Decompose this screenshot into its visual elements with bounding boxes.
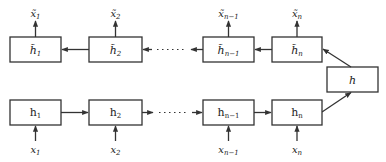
cell-subscript: n <box>298 112 303 120</box>
arrow-diagonal-icon <box>323 49 351 67</box>
cell-label: h <box>291 106 298 119</box>
bottleneck-cell: h <box>322 49 378 112</box>
cell-label: h̃ <box>110 44 117 57</box>
encoder-cell-1: h1 <box>10 100 61 125</box>
output-label-n-minus-1: x̃n−1 <box>218 8 238 21</box>
decoder-cell-2: h̃2 <box>89 37 142 62</box>
cell-subscript: 1 <box>37 50 41 58</box>
arrow-diagonal-icon <box>322 93 351 113</box>
output-label-1: x̃1 <box>30 8 40 21</box>
decoder-cell-n: h̃n <box>272 37 322 62</box>
output-label-n: x̃n <box>292 8 303 21</box>
encoder-cell-n-minus-1: hn−1 <box>203 100 254 125</box>
cell-label: h̃ <box>291 44 298 57</box>
cell-label: h <box>110 106 117 119</box>
cell-subscript: n <box>298 50 303 58</box>
input-label-n: xn <box>292 144 303 157</box>
input-label-2: x2 <box>110 144 121 157</box>
decoder-row: h̃1 h̃2 h̃n−1 h̃n <box>10 8 322 62</box>
cell-label: h̃ <box>30 44 37 57</box>
cell-subscript: n−1 <box>225 112 240 120</box>
input-label-1: x1 <box>30 144 40 157</box>
cell-label: h̃ <box>218 44 225 57</box>
cell-subscript: 2 <box>116 50 122 58</box>
autoencoder-diagram: h̃1 h̃2 h̃n−1 h̃n <box>0 0 386 162</box>
cell-subscript: 2 <box>117 112 121 120</box>
output-label-2: x̃2 <box>110 8 121 21</box>
cell-subscript: 1 <box>37 112 41 120</box>
decoder-cell-1: h̃1 <box>10 37 61 62</box>
cell-label: h <box>218 106 225 119</box>
encoder-cell-2: h2 <box>89 100 142 125</box>
bottleneck-label: h <box>349 74 356 87</box>
encoder-cell-n: hn <box>272 100 322 125</box>
decoder-cell-n-minus-1: h̃n−1 <box>203 37 254 62</box>
cell-label: h <box>30 106 37 119</box>
input-label-n-minus-1: xn−1 <box>218 144 238 157</box>
encoder-row: h1 h2 hn−1 hn <box>10 100 322 157</box>
cell-subscript: n−1 <box>225 50 240 58</box>
